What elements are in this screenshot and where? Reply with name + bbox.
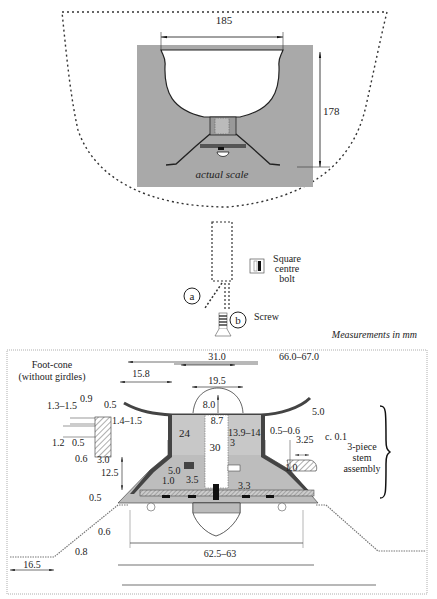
svg-text:16.5: 16.5 <box>23 559 41 570</box>
stem-assembly-label: 3-piece <box>347 441 377 452</box>
svg-text:8.7: 8.7 <box>211 415 224 426</box>
foot-cone-title: Foot-cone <box>32 359 73 370</box>
dim-185: 185 <box>216 14 233 26</box>
svg-text:3.3: 3.3 <box>238 480 251 491</box>
scale-label: actual scale <box>196 168 249 180</box>
svg-text:b: b <box>235 314 241 326</box>
svg-text:0.6: 0.6 <box>75 453 88 464</box>
svg-text:a: a <box>190 290 195 302</box>
svg-text:1.0: 1.0 <box>285 462 298 473</box>
svg-text:c. 0.1: c. 0.1 <box>325 431 347 442</box>
dim-178: 178 <box>323 105 340 117</box>
svg-text:1.2: 1.2 <box>52 437 65 448</box>
top-view: 185 178 actual scale a b Screw S <box>62 12 417 340</box>
svg-text:0.5: 0.5 <box>104 399 117 410</box>
svg-text:30: 30 <box>210 441 222 453</box>
svg-text:62.5–63: 62.5–63 <box>204 548 237 559</box>
svg-text:1.3–1.5: 1.3–1.5 <box>47 400 77 411</box>
svg-text:31.0: 31.0 <box>208 351 226 362</box>
svg-text:3.25: 3.25 <box>296 434 314 445</box>
svg-text:assembly: assembly <box>343 463 380 474</box>
svg-text:3.0: 3.0 <box>97 454 110 465</box>
screw-icon <box>215 313 231 336</box>
svg-text:24: 24 <box>179 427 191 439</box>
svg-text:3: 3 <box>230 437 235 448</box>
svg-text:0.9: 0.9 <box>80 393 93 404</box>
svg-text:0.6: 0.6 <box>98 526 111 537</box>
svg-text:1.4–1.5: 1.4–1.5 <box>112 415 142 426</box>
svg-text:0.5: 0.5 <box>72 437 85 448</box>
svg-text:(without girdles): (without girdles) <box>19 371 86 383</box>
screw-label: Screw <box>254 311 280 322</box>
detail-view: Foot-cone (without girdles) <box>7 350 427 594</box>
bowl-shape <box>161 50 283 117</box>
svg-text:1.0: 1.0 <box>162 475 175 486</box>
svg-text:bolt: bolt <box>279 273 295 284</box>
svg-text:19.5: 19.5 <box>208 375 226 386</box>
svg-text:8.0: 8.0 <box>203 399 216 410</box>
units-note: Measurements in mm <box>331 329 417 340</box>
svg-text:66.0–67.0: 66.0–67.0 <box>279 351 319 362</box>
svg-text:stem: stem <box>353 452 372 463</box>
svg-text:5.0: 5.0 <box>312 406 325 417</box>
svg-text:12.5: 12.5 <box>101 467 119 478</box>
svg-text:3.5: 3.5 <box>186 474 199 485</box>
square-bolt-icon <box>250 259 264 273</box>
diagram-canvas: 185 178 actual scale a b Screw S <box>0 0 437 599</box>
svg-text:15.8: 15.8 <box>132 368 150 379</box>
svg-text:0.5: 0.5 <box>89 492 102 503</box>
stem-extension <box>212 222 232 281</box>
svg-text:0.8: 0.8 <box>75 546 88 557</box>
stem-assembly-brace <box>380 406 390 498</box>
